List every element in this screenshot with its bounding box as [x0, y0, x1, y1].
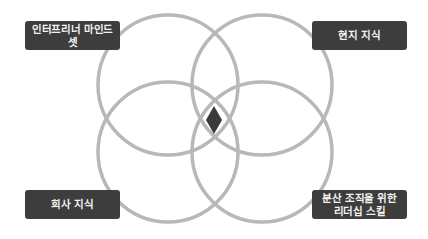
label-text: 현지 지식	[338, 29, 380, 42]
circle-bottom-right	[192, 82, 332, 222]
label-entrepreneur-mindset: 인터프리너 마인드셋	[25, 21, 120, 50]
label-distributed-leadership-skills: 분산 조직을 위한 리더십 스킬	[312, 190, 407, 219]
label-local-knowledge: 현지 지식	[312, 21, 407, 50]
label-text: 회사 지식	[51, 198, 93, 211]
label-company-knowledge: 회사 지식	[25, 190, 120, 219]
label-text-line2: 리더십 스킬	[334, 205, 386, 218]
circle-top-right	[192, 15, 332, 155]
label-text: 인터프리너 마인드셋	[29, 23, 116, 49]
label-text-line1: 분산 조직을 위한	[322, 192, 397, 205]
